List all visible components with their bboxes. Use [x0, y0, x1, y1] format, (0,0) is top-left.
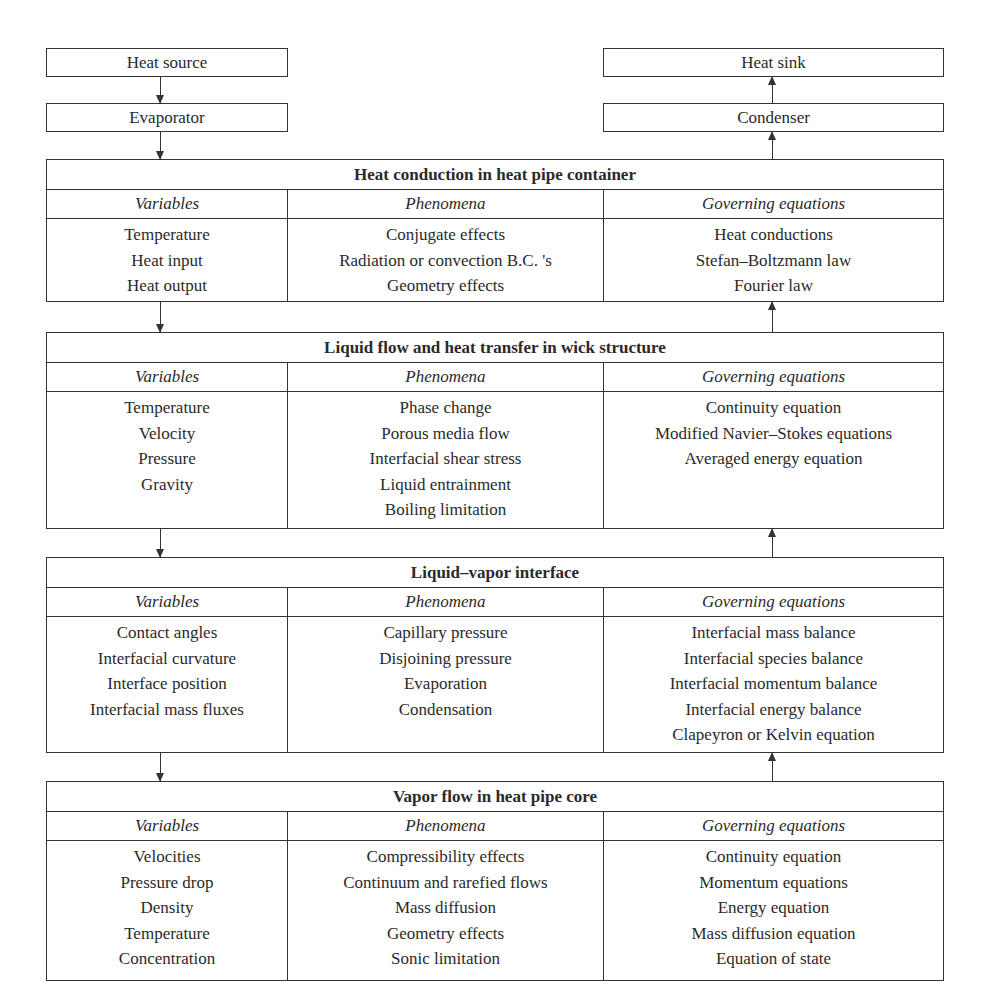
list-item: Liquid entrainment — [288, 472, 603, 498]
list-item: Phase change — [288, 395, 603, 421]
list-item: Heat conductions — [604, 222, 943, 248]
list-item: Gravity — [47, 472, 287, 498]
governing-cell: Continuity equation Modified Navier–Stok… — [604, 391, 943, 528]
variables-cell: Velocities Pressure drop Density Tempera… — [47, 840, 288, 980]
list-item: Velocity — [47, 421, 287, 447]
list-item: Continuum and rarefied flows — [288, 870, 603, 896]
phenomena-cell: Compressibility effects Continuum and ra… — [288, 840, 604, 980]
list-item: Conjugate effects — [288, 222, 603, 248]
header-phenomena: Phenomena — [288, 189, 604, 218]
list-item: Continuity equation — [604, 395, 943, 421]
governing-cell: Heat conductions Stefan–Boltzmann law Fo… — [604, 218, 943, 301]
arrow-down-icon — [160, 302, 161, 332]
phenomena-cell: Phase change Porous media flow Interfaci… — [288, 391, 604, 528]
list-item: Compressibility effects — [288, 844, 603, 870]
list-item: Momentum equations — [604, 870, 943, 896]
header-variables: Variables — [47, 362, 288, 391]
heat-source-box: Heat source — [46, 48, 288, 77]
header-variables: Variables — [47, 811, 288, 840]
arrow-up-icon — [772, 77, 773, 103]
list-item: Contact angles — [47, 620, 287, 646]
list-item: Fourier law — [604, 273, 943, 299]
governing-cell: Continuity equation Momentum equations E… — [604, 840, 943, 980]
arrow-up-icon — [772, 132, 773, 159]
condenser-label: Condenser — [737, 108, 810, 128]
section-liquid-vapor-interface: Liquid–vapor interface Variables Phenome… — [46, 557, 944, 753]
list-item: Radiation or convection B.C. 's — [288, 248, 603, 274]
list-item: Geometry effects — [288, 921, 603, 947]
section-title: Vapor flow in heat pipe core — [47, 782, 943, 812]
arrow-up-icon — [772, 302, 773, 332]
list-item: Velocities — [47, 844, 287, 870]
heat-sink-box: Heat sink — [603, 48, 944, 77]
heat-sink-label: Heat sink — [741, 53, 806, 73]
list-item: Interfacial momentum balance — [604, 671, 943, 697]
arrow-down-icon — [160, 529, 161, 557]
condenser-box: Condenser — [603, 103, 944, 132]
list-item: Temperature — [47, 222, 287, 248]
governing-cell: Interfacial mass balance Interfacial spe… — [604, 616, 943, 752]
list-item: Continuity equation — [604, 844, 943, 870]
list-item: Interfacial shear stress — [288, 446, 603, 472]
evaporator-label: Evaporator — [129, 108, 205, 128]
list-item: Energy equation — [604, 895, 943, 921]
variables-cell: Contact angles Interfacial curvature Int… — [47, 616, 288, 752]
section-wick-structure: Liquid flow and heat transfer in wick st… — [46, 332, 944, 529]
list-item: Sonic limitation — [288, 946, 603, 972]
section-title: Liquid–vapor interface — [47, 558, 943, 588]
list-item: Density — [47, 895, 287, 921]
header-governing: Governing equations — [604, 189, 943, 218]
heat-source-label: Heat source — [127, 53, 208, 73]
list-item: Mass diffusion — [288, 895, 603, 921]
list-item: Interfacial energy balance — [604, 697, 943, 723]
header-variables: Variables — [47, 587, 288, 616]
list-item: Evaporation — [288, 671, 603, 697]
list-item: Interfacial species balance — [604, 646, 943, 672]
header-phenomena: Phenomena — [288, 811, 604, 840]
arrow-up-icon — [772, 529, 773, 557]
list-item: Porous media flow — [288, 421, 603, 447]
list-item: Geometry effects — [288, 273, 603, 299]
arrow-down-icon — [160, 77, 161, 103]
variables-cell: Temperature Heat input Heat output — [47, 218, 288, 301]
arrow-down-icon — [160, 753, 161, 781]
list-item: Interfacial mass balance — [604, 620, 943, 646]
list-item: Temperature — [47, 921, 287, 947]
list-item: Heat input — [47, 248, 287, 274]
phenomena-cell: Conjugate effects Radiation or convectio… — [288, 218, 604, 301]
list-item: Capillary pressure — [288, 620, 603, 646]
header-variables: Variables — [47, 189, 288, 218]
header-phenomena: Phenomena — [288, 587, 604, 616]
list-item: Averaged energy equation — [604, 446, 943, 472]
list-item: Equation of state — [604, 946, 943, 972]
arrow-down-icon — [160, 132, 161, 159]
list-item: Temperature — [47, 395, 287, 421]
list-item: Pressure drop — [47, 870, 287, 896]
list-item: Interface position — [47, 671, 287, 697]
list-item: Modified Navier–Stokes equations — [604, 421, 943, 447]
variables-cell: Temperature Velocity Pressure Gravity — [47, 391, 288, 528]
header-governing: Governing equations — [604, 587, 943, 616]
section-heat-conduction: Heat conduction in heat pipe container V… — [46, 159, 944, 302]
list-item: Interfacial curvature — [47, 646, 287, 672]
arrow-up-icon — [772, 753, 773, 781]
evaporator-box: Evaporator — [46, 103, 288, 132]
list-item: Interfacial mass fluxes — [47, 697, 287, 723]
header-governing: Governing equations — [604, 811, 943, 840]
list-item: Pressure — [47, 446, 287, 472]
header-governing: Governing equations — [604, 362, 943, 391]
section-vapor-flow: Vapor flow in heat pipe core Variables P… — [46, 781, 944, 981]
list-item: Stefan–Boltzmann law — [604, 248, 943, 274]
phenomena-cell: Capillary pressure Disjoining pressure E… — [288, 616, 604, 752]
list-item: Heat output — [47, 273, 287, 299]
header-phenomena: Phenomena — [288, 362, 604, 391]
section-title: Heat conduction in heat pipe container — [47, 160, 943, 190]
section-title: Liquid flow and heat transfer in wick st… — [47, 333, 943, 363]
list-item: Boiling limitation — [288, 497, 603, 523]
list-item: Concentration — [47, 946, 287, 972]
list-item: Mass diffusion equation — [604, 921, 943, 947]
list-item: Disjoining pressure — [288, 646, 603, 672]
list-item: Clapeyron or Kelvin equation — [604, 722, 943, 748]
list-item: Condensation — [288, 697, 603, 723]
